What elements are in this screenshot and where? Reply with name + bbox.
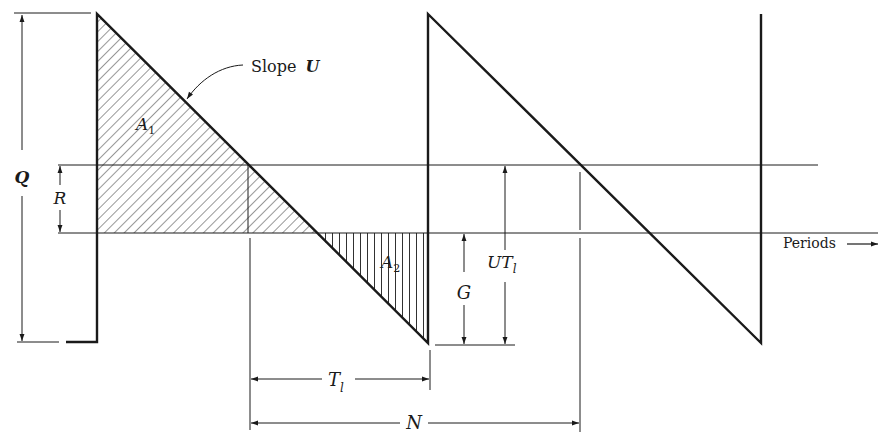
inventory-diagram: Q R Slope U A1 A2 G UTl Tl N Periods — [0, 0, 886, 442]
label-utl: UTl — [487, 252, 517, 276]
label-g: G — [457, 282, 471, 303]
label-r: R — [53, 188, 67, 208]
label-slope: Slope U — [251, 57, 321, 76]
slope-pointer-arrow — [187, 65, 243, 99]
label-q: Q — [15, 167, 30, 187]
label-tl: Tl — [328, 369, 344, 395]
label-n: N — [405, 412, 423, 433]
label-periods: Periods — [783, 235, 836, 251]
